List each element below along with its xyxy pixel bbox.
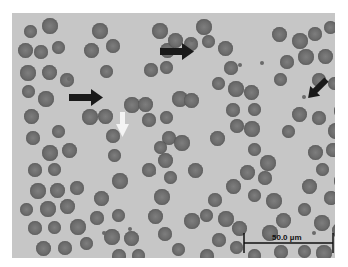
white-arrow-icon (116, 112, 129, 137)
black-arrow-icon (69, 89, 103, 106)
annotation-layer (0, 0, 348, 267)
black-arrow-icon (303, 75, 331, 103)
black-arrow-icon (160, 43, 194, 60)
scale-bar-label: 50.0 µm (272, 233, 302, 242)
